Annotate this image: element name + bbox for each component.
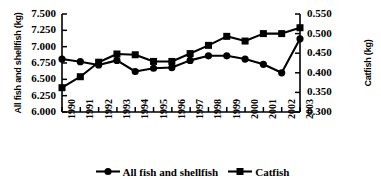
- data-series: [58, 24, 303, 91]
- x-axis-tick-label: 1999: [231, 99, 242, 119]
- y-axis-right-tick-label: 0.500: [307, 27, 347, 39]
- legend-item[interactable]: All fish and shellfish: [95, 166, 219, 178]
- y-axis-left-tick-label: 7.250: [16, 23, 56, 35]
- y-axis-left-tick-label: 6.500: [16, 72, 56, 84]
- x-axis-tick-label: 1997: [194, 99, 205, 119]
- legend-item[interactable]: Catfish: [227, 166, 289, 178]
- y-axis-left-tick-label: 6.250: [16, 89, 56, 101]
- legend-square-marker-icon: [227, 166, 253, 177]
- x-axis-tick-label: 1998: [212, 99, 223, 119]
- legend-item-label: All fish and shellfish: [123, 166, 219, 178]
- legend-item-label: Catfish: [255, 166, 289, 178]
- y-axis-left-tick-label: 7.500: [16, 7, 56, 19]
- x-axis-tick-label: 1992: [103, 99, 114, 119]
- x-axis-tick-label: 1995: [158, 99, 169, 119]
- x-axis-tick-label: 2001: [267, 99, 278, 119]
- y-axis-right-title: Catfish (kg): [363, 7, 373, 119]
- x-axis-tick-label: 2000: [249, 99, 260, 119]
- x-axis-tick-label: 2002: [286, 99, 297, 119]
- x-axis-tick-label: 1990: [66, 99, 77, 119]
- legend-circle-marker-icon: [95, 166, 121, 177]
- x-axis-tick-label: 2003: [304, 99, 315, 119]
- y-axis-right-tick-label: 0.450: [307, 46, 347, 58]
- chart-legend: All fish and shellfishCatfish: [88, 163, 296, 180]
- y-axis-right-tick-label: 0.550: [307, 7, 347, 19]
- x-axis-tick-label: 1996: [176, 99, 187, 119]
- x-axis-tick-label: 1993: [121, 99, 132, 119]
- y-axis-left-tick-label: 6.750: [16, 56, 56, 68]
- y-axis-left-tick-label: 6.000: [16, 105, 56, 117]
- chart-container: All fish and shellfish (kg) Catfish (kg)…: [0, 0, 381, 186]
- y-axis-right-tick-label: 0.350: [307, 85, 347, 97]
- y-axis-left-tick-label: 7.000: [16, 40, 56, 52]
- x-axis-tick-label: 1991: [84, 99, 95, 119]
- x-axis-tick-label: 1994: [139, 99, 150, 119]
- y-axis-right-tick-label: 0.400: [307, 66, 347, 78]
